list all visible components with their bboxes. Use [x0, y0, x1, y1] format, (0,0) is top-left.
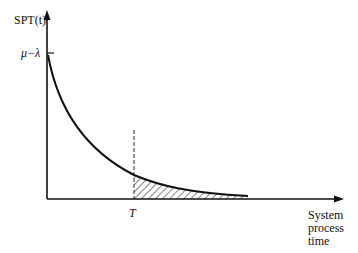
x-axis-label: System process time	[308, 209, 344, 248]
spt-plot	[0, 0, 358, 253]
t-marker-label: T	[129, 207, 136, 220]
y-axis-label: SPT(t)	[14, 14, 46, 27]
decay-curve	[48, 55, 248, 196]
y-tick-label: μ−λ	[21, 47, 40, 60]
x-axis-arrow-icon	[334, 196, 344, 203]
x-axis-label-line-3: time	[308, 235, 344, 248]
